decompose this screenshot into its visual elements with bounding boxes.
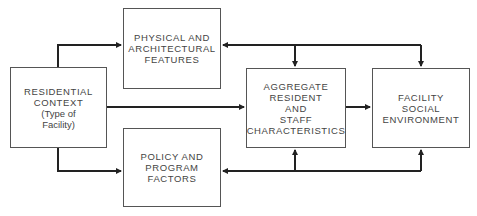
node-policy-program: POLICY AND PROGRAM FACTORS bbox=[123, 128, 221, 207]
node-label-line: (Type of bbox=[24, 108, 93, 119]
node-facility-social-environment: FACILITY SOCIAL ENVIRONMENT bbox=[372, 68, 470, 148]
node-label-line: FACILITY bbox=[383, 92, 460, 103]
node-label-line: CONTEXT bbox=[24, 97, 93, 108]
node-label-line: Facility) bbox=[24, 119, 93, 130]
node-label-line: CHARACTERISTICS bbox=[247, 125, 346, 136]
node-label-line: RESIDENTIAL bbox=[24, 86, 93, 97]
node-residential-context: RESIDENTIAL CONTEXT (Type of Facility) bbox=[10, 67, 107, 148]
node-label-line: ENVIRONMENT bbox=[383, 114, 460, 125]
node-label-line: POLICY AND bbox=[141, 151, 204, 162]
node-label-line: AND bbox=[247, 103, 346, 114]
node-label-line: RESIDENT bbox=[247, 92, 346, 103]
node-label-line: STAFF bbox=[247, 114, 346, 125]
node-physical-architectural: PHYSICAL AND ARCHITECTURAL FEATURES bbox=[123, 8, 221, 89]
node-aggregate-characteristics: AGGREGATE RESIDENT AND STAFF CHARACTERIS… bbox=[246, 68, 346, 148]
node-label-line: PHYSICAL AND bbox=[128, 32, 216, 43]
node-label-line: PROGRAM bbox=[141, 162, 204, 173]
node-label-line: AGGREGATE bbox=[247, 81, 346, 92]
node-label-line: FACTORS bbox=[141, 173, 204, 184]
node-label-line: SOCIAL bbox=[383, 103, 460, 114]
node-label-line: FEATURES bbox=[128, 54, 216, 65]
node-label-line: ARCHITECTURAL bbox=[128, 43, 216, 54]
